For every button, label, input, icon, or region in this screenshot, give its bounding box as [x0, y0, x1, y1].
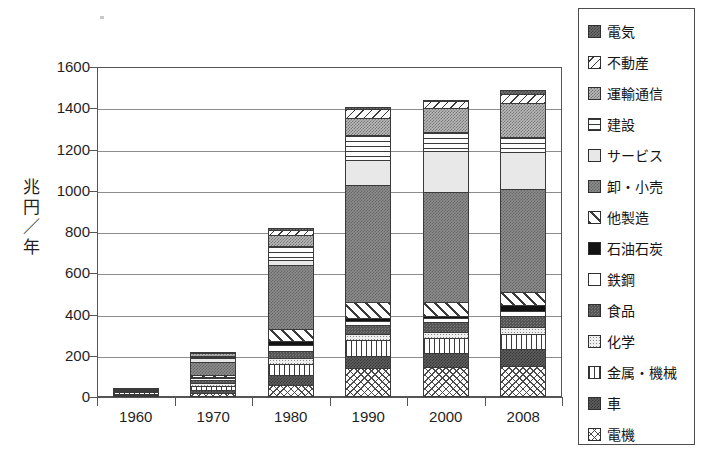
- bar-segment-1980-建設: [268, 246, 314, 259]
- bar-segment-2008-化学: [500, 327, 546, 334]
- legend-swatch-icon: [588, 149, 601, 162]
- legend-item-卸・小売[interactable]: 卸・小売: [579, 171, 694, 202]
- bar-segment-2000-食品: [423, 322, 469, 332]
- bar-1990[interactable]: [345, 107, 391, 397]
- y-axis-tick: [89, 273, 98, 274]
- y-axis-tick-label: 0: [42, 389, 90, 404]
- bar-segment-1970-車: [190, 390, 236, 393]
- bar-segment-2000-建設: [423, 132, 469, 151]
- y-axis-tick-labels: 02004006008001000120014001600: [30, 0, 90, 453]
- legend-item-車[interactable]: 車: [579, 388, 694, 419]
- bar-segment-2008-石油石炭: [500, 305, 546, 311]
- bar-segment-2008-建設: [500, 137, 546, 152]
- bar-segment-2000-石油石炭: [423, 316, 469, 318]
- y-axis-tick: [89, 191, 98, 192]
- legend-swatch-icon: [588, 211, 601, 224]
- legend-swatch-icon: [588, 87, 601, 100]
- bar-segment-1990-サービス: [345, 160, 391, 185]
- x-axis-tick: [252, 397, 253, 406]
- x-axis-tick-label: 1970: [173, 408, 253, 425]
- bar-segment-2008-卸・小売: [500, 189, 546, 292]
- bar-segment-1980-サービス: [268, 260, 314, 265]
- legend-item-金属・機械[interactable]: 金属・機械: [579, 357, 694, 388]
- y-axis-tick-label: 1200: [42, 142, 90, 157]
- bar-segment-1970-建設: [190, 356, 236, 358]
- bar-segment-2008-他製造: [500, 292, 546, 304]
- legend-item-label: 金属・機械: [607, 366, 677, 380]
- bar-segment-2008-鉄鋼: [500, 311, 546, 316]
- bar-segment-2008-車: [500, 349, 546, 367]
- bar-1960[interactable]: [113, 389, 159, 397]
- bar-2000[interactable]: [423, 100, 469, 397]
- legend-item-電気[interactable]: 電気: [579, 16, 694, 47]
- y-axis-tick: [89, 232, 98, 233]
- legend-swatch-icon: [588, 335, 601, 348]
- bar-1970[interactable]: [190, 353, 236, 397]
- bar-segment-1990-金属・機械: [345, 340, 391, 355]
- x-axis-tick-label: 2000: [406, 408, 486, 425]
- legend-swatch-icon: [588, 366, 601, 379]
- bar-segment-2008-金属・機械: [500, 334, 546, 348]
- y-axis-tick: [89, 108, 98, 109]
- bar-segment-1970-金属・機械: [190, 386, 236, 391]
- x-axis-tick-label: 1980: [251, 408, 331, 425]
- bar-1980[interactable]: [268, 228, 314, 397]
- x-axis-tick: [562, 397, 563, 406]
- bar-segment-1980-化学: [268, 358, 314, 364]
- y-axis-tick-label: 1400: [42, 100, 90, 115]
- bar-group: [97, 67, 562, 397]
- legend-item-label: 卸・小売: [607, 180, 663, 194]
- bar-segment-1960-他製造: [113, 388, 159, 389]
- legend-item-サービス[interactable]: サービス: [579, 140, 694, 171]
- legend-item-化学[interactable]: 化学: [579, 326, 694, 357]
- x-axis-tick-label: 1960: [96, 408, 176, 425]
- bar-segment-2000-金属・機械: [423, 338, 469, 352]
- legend-item-電機[interactable]: 電機: [579, 419, 694, 450]
- bar-segment-2008-不動産: [500, 94, 546, 103]
- legend-swatch-icon: [588, 118, 601, 131]
- bar-segment-1990-車: [345, 356, 391, 368]
- legend-item-食品[interactable]: 食品: [579, 295, 694, 326]
- bar-segment-2008-電機: [500, 366, 546, 397]
- y-axis-tick-label: 200: [42, 348, 90, 363]
- legend-item-鉄鋼[interactable]: 鉄鋼: [579, 264, 694, 295]
- scan-speck: [100, 16, 104, 19]
- legend-item-不動産[interactable]: 不動産: [579, 47, 694, 78]
- x-axis-tick: [175, 397, 176, 406]
- bar-segment-2000-運輸通信: [423, 108, 469, 133]
- bar-segment-2000-化学: [423, 332, 469, 338]
- bar-segment-1970-化学: [190, 383, 236, 385]
- legend-item-建設[interactable]: 建設: [579, 109, 694, 140]
- bar-segment-1960-車: [113, 394, 159, 395]
- bar-segment-1970-電機: [190, 393, 236, 397]
- legend-swatch-icon: [588, 25, 601, 38]
- legend-item-他製造[interactable]: 他製造: [579, 202, 694, 233]
- legend-item-label: 建設: [607, 118, 635, 132]
- y-axis-tick-label: 1000: [42, 183, 90, 198]
- bar-segment-1980-車: [268, 375, 314, 384]
- y-axis-tick: [89, 315, 98, 316]
- y-axis-tick: [89, 67, 98, 68]
- x-axis-tick: [330, 397, 331, 406]
- bar-segment-1960-化学: [113, 391, 159, 392]
- legend: 電気不動産運輸通信建設サービス卸・小売他製造石油石炭鉄鋼食品化学金属・機械車電機: [578, 8, 695, 445]
- bar-segment-1970-他製造: [190, 375, 236, 377]
- legend-item-運輸通信[interactable]: 運輸通信: [579, 78, 694, 109]
- legend-item-label: 鉄鋼: [607, 273, 635, 287]
- bar-segment-1970-不動産: [190, 352, 236, 353]
- legend-item-label: 電気: [607, 25, 635, 39]
- bar-segment-1970-卸・小売: [190, 362, 236, 375]
- bar-2008[interactable]: [500, 90, 546, 397]
- bar-segment-1990-電機: [345, 368, 391, 397]
- legend-item-石油石炭[interactable]: 石油石炭: [579, 233, 694, 264]
- bar-segment-1990-化学: [345, 334, 391, 340]
- bar-segment-1980-石油石炭: [268, 341, 314, 345]
- bar-segment-1980-卸・小売: [268, 265, 314, 329]
- bar-segment-2000-不動産: [423, 101, 469, 108]
- bar-segment-2000-サービス: [423, 151, 469, 192]
- x-axis-tick: [485, 397, 486, 406]
- bar-segment-2000-他製造: [423, 302, 469, 316]
- bar-segment-1970-サービス: [190, 358, 236, 362]
- bar-segment-1990-運輸通信: [345, 118, 391, 136]
- legend-swatch-icon: [588, 56, 601, 69]
